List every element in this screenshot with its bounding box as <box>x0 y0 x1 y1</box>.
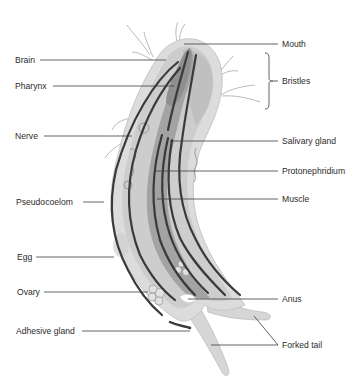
label-mouth: Mouth <box>282 39 306 49</box>
label-protonephridium: Protonephridium <box>282 166 345 176</box>
label-anus: Anus <box>282 294 302 304</box>
label-ovary: Ovary <box>17 287 40 297</box>
label-brain: Brain <box>15 55 35 65</box>
label-bristles: Bristles <box>282 76 310 86</box>
label-pseudocoelom: Pseudocoelom <box>16 197 73 207</box>
label-adhesive-gland: Adhesive gland <box>16 326 75 336</box>
label-forked-tail: Forked tail <box>282 340 322 350</box>
label-nerve: Nerve <box>15 131 38 141</box>
label-egg: Egg <box>17 252 32 262</box>
label-muscle: Muscle <box>282 194 309 204</box>
label-salivary-gland: Salivary gland <box>282 136 336 146</box>
label-pharynx: Pharynx <box>15 81 47 91</box>
